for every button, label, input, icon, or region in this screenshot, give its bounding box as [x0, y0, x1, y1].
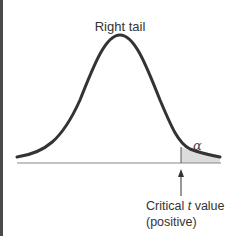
critical-label-prefix: Critical: [146, 199, 188, 213]
distribution-curve: [17, 35, 220, 157]
critical-value-label: Critical t value (positive): [146, 198, 225, 230]
diagram-title: Right tail: [80, 19, 160, 34]
critical-label-line2: (positive): [146, 215, 197, 229]
arrow-head-icon: [178, 169, 184, 177]
critical-label-suffix: value: [191, 199, 224, 213]
alpha-label: α: [193, 138, 202, 153]
